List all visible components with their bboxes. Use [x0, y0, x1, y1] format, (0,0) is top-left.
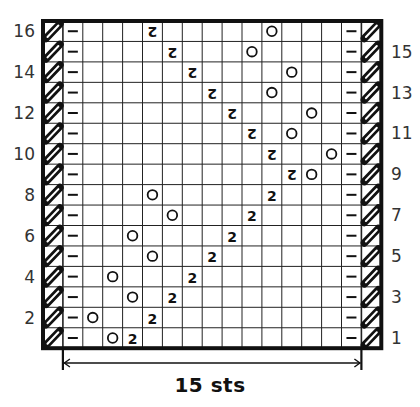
- row-number-label: 4: [24, 267, 35, 287]
- row-number-label: 1: [391, 328, 402, 348]
- row-number-label: 9: [391, 164, 402, 184]
- decrease-mirrored-icon: 2: [227, 106, 237, 122]
- row-number-label: 14: [13, 62, 35, 82]
- row-number-label: 16: [13, 21, 35, 41]
- row-number-label: 12: [13, 103, 35, 123]
- chart-grid: [43, 21, 381, 348]
- decrease-icon: 2: [128, 331, 138, 347]
- row-number-label: 8: [24, 185, 35, 205]
- decrease-icon: 2: [267, 188, 277, 204]
- decrease-mirrored-icon: 2: [167, 45, 177, 61]
- decrease-icon: 2: [247, 208, 257, 224]
- decrease-icon: 2: [167, 290, 177, 306]
- row-number-label: 7: [391, 205, 402, 225]
- decrease-icon: 2: [207, 249, 217, 265]
- row-number-label: 2: [24, 308, 35, 328]
- knitting-chart: 2222222222222222 16141210864215131197531: [0, 0, 420, 407]
- decrease-icon: 2: [227, 229, 237, 245]
- decrease-mirrored-icon: 2: [247, 126, 257, 142]
- decrease-mirrored-icon: 2: [148, 24, 158, 40]
- decrease-icon: 2: [148, 311, 158, 327]
- stitch-count-label: 15 sts: [0, 373, 420, 397]
- row-number-label: 3: [391, 287, 402, 307]
- row-number-label: 11: [391, 123, 413, 143]
- decrease-icon: 2: [187, 270, 197, 286]
- decrease-mirrored-icon: 2: [187, 65, 197, 81]
- row-number-label: 10: [13, 144, 35, 164]
- decrease-mirrored-icon: 2: [287, 167, 297, 183]
- decrease-mirrored-icon: 2: [267, 147, 277, 163]
- row-number-label: 6: [24, 226, 35, 246]
- row-number-label: 5: [391, 246, 402, 266]
- row-number-label: 15: [391, 42, 413, 62]
- decrease-mirrored-icon: 2: [207, 86, 217, 102]
- row-number-label: 13: [391, 83, 413, 103]
- width-indicator: [63, 348, 362, 370]
